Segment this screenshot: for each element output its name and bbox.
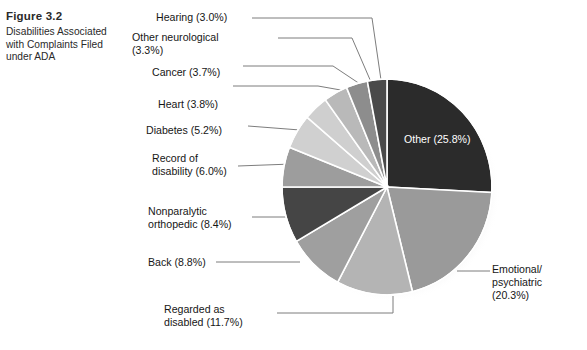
leader-line-cancer	[243, 66, 363, 86]
pie-slices-group	[282, 79, 492, 295]
leader-line-other-neurological	[278, 38, 371, 82]
label-record-of-disability: Record of disability (6.0%)	[152, 152, 227, 178]
label-hearing: Hearing (3.0%)	[156, 11, 227, 24]
label-back: Back (8.8%)	[148, 256, 206, 269]
label-emotional-psychiatric: Emotional/ psychiatric (20.3%)	[492, 263, 542, 302]
label-diabetes: Diabetes (5.2%)	[146, 124, 222, 137]
label-regarded-as-disabled: Regarded as disabled (11.7%)	[164, 303, 243, 329]
leader-line-diabetes	[248, 126, 300, 130]
label-nonparalytic-orthopedic: Nonparalytic orthopedic (8.4%)	[148, 205, 232, 231]
leader-line-heart	[233, 86, 352, 92]
label-cancer: Cancer (3.7%)	[152, 66, 220, 79]
figure-root: Figure 3.2 Disabilities Associated with …	[0, 0, 587, 350]
leader-line-hearing	[252, 18, 381, 80]
label-heart: Heart (3.8%)	[158, 98, 218, 111]
label-other-neurological: Other neurological (3.3%)	[132, 31, 219, 57]
label-other: Other (25.8%)	[404, 133, 471, 146]
